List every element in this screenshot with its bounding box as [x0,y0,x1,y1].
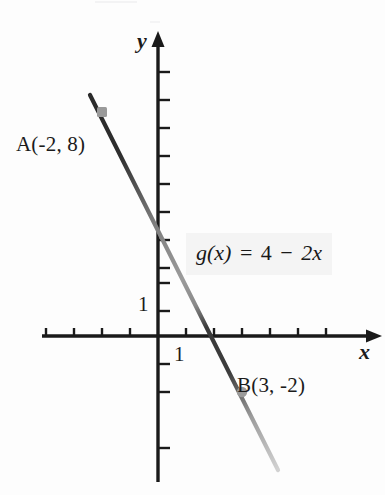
y-axis [152,31,171,482]
graph-figure: A(-2, 8) B(3, -2) y x 1 1 g(x) = 4 − 2x [0,0,385,495]
y-axis-unit-label: 1 [138,294,149,315]
x-axis-label: x [359,341,370,363]
point-label-a: A(-2, 8) [16,134,85,155]
equation-constant: 4 [261,240,272,265]
function-line [90,95,278,470]
x-axis-unit-label: 1 [174,344,185,365]
equation-slope-term: 2x [301,240,322,265]
point-marker-a [97,107,107,117]
y-axis-ticks [158,72,170,448]
equation-lhs: g(x) [196,240,231,265]
equation-annotation: g(x) = 4 − 2x [186,233,332,275]
y-axis-label: y [137,30,147,52]
equation-equals: = [237,240,255,265]
point-label-b: B(3, -2) [237,375,305,396]
equation-minus: − [277,240,295,265]
